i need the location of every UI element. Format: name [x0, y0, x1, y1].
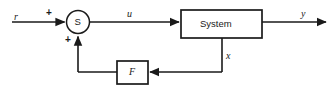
summing-junction-label: S — [75, 17, 81, 27]
system-block-label: System — [200, 19, 232, 29]
reference-sign-label: + — [46, 8, 52, 18]
block-diagram-figure: r + S + u System y x F — [0, 0, 334, 90]
feedback-sign-label: + — [65, 35, 71, 45]
feedback-block-label: F — [129, 67, 135, 77]
output-signal-label: y — [301, 9, 305, 19]
reference-signal-label: r — [14, 12, 18, 22]
control-signal-label: u — [127, 9, 132, 19]
state-signal-label: x — [226, 51, 230, 61]
